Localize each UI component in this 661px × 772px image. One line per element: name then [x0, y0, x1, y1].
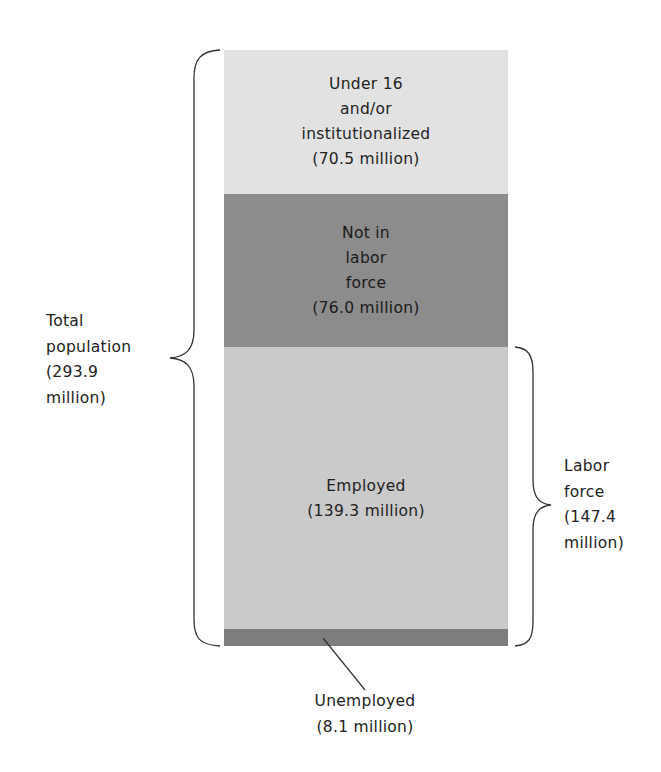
label-line: Labor — [564, 454, 624, 480]
label-line: million) — [46, 386, 131, 412]
label-line: million) — [564, 531, 624, 557]
labor-force-label: Labor force (147.4 million) — [564, 454, 624, 556]
label-line: (293.9 — [46, 360, 131, 386]
labor-force-brace — [515, 347, 551, 646]
label-line: population — [46, 335, 131, 361]
label-line: force — [564, 480, 624, 506]
label-line: (8.1 million) — [305, 715, 425, 741]
label-line: (147.4 — [564, 505, 624, 531]
unemployed-pointer-line — [323, 638, 365, 690]
unemployed-label: Unemployed (8.1 million) — [305, 689, 425, 740]
total-population-brace — [170, 50, 220, 646]
label-line: Unemployed — [305, 689, 425, 715]
total-population-label: Total population (293.9 million) — [46, 309, 131, 411]
label-line: Total — [46, 309, 131, 335]
